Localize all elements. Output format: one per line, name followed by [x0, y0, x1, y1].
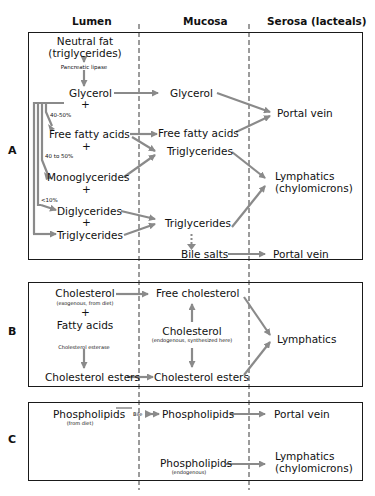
lumen-cholesterol-esters: Cholesterol esters	[45, 371, 140, 383]
mucosa-free-cholesterol: Free cholesterol	[156, 287, 239, 299]
plus-sign: +	[81, 98, 90, 110]
serosa-portal-vein-c: Portal vein	[274, 408, 330, 420]
neutral-fat-sub: (triglycerides)	[48, 47, 122, 59]
serosa-lymphatics-b: Lymphatics	[277, 333, 336, 345]
pct-lt-10-label: <10%	[41, 197, 58, 203]
pct-40-50-label: 40-50%	[50, 112, 71, 118]
plus-sign: +	[81, 306, 90, 318]
serosa-portal-vein-2: Portal vein	[273, 248, 329, 260]
mucosa-triglycerides: Triglycerides	[167, 145, 233, 157]
lumen-phospholipids: Phospholipids	[53, 408, 125, 420]
mucosa-cholesterol-sub: (endogenous, synthesized here)	[148, 337, 236, 343]
mucosa-cholesterol-esters: Cholesterol esters	[154, 371, 249, 383]
mucosa-triglycerides-2: Triglycerides	[165, 217, 231, 229]
serosa-lymphatics-c-sub: (chylomicrons)	[275, 462, 353, 474]
lumen-triglycerides: Triglycerides	[57, 229, 123, 241]
serosa-lymphatics-c: Lymphatics	[275, 450, 334, 462]
mucosa-free-fatty-acids: Free fatty acids	[158, 127, 239, 139]
bile-label: Bile	[133, 411, 142, 417]
serosa-portal-vein: Portal vein	[277, 107, 333, 119]
pancreatic-lipase-label: Pancreatic lipase	[54, 64, 114, 70]
serosa-lymphatics-sub: (chylomicrons)	[275, 182, 353, 194]
plus-sign: +	[82, 216, 91, 228]
serosa-lymphatics: Lymphatics	[275, 170, 334, 182]
mucosa-bile-salts: Bile salts	[181, 248, 228, 260]
neutral-fat-label: Neutral fat	[54, 35, 116, 47]
mucosa-phospholipids-endogenous: Phospholipids	[160, 457, 232, 469]
lumen-free-fatty-acids: Free fatty acids	[49, 128, 130, 140]
lumen-monoglycerides: Monoglycerides	[47, 171, 129, 183]
plus-sign: +	[82, 140, 91, 152]
plus-sign: +	[82, 183, 91, 195]
mucosa-phospholipids-sub: (endogenous)	[164, 469, 214, 475]
pct-40-to-50-label: 40 to 50%	[45, 153, 73, 159]
mucosa-cholesterol: Cholesterol	[160, 325, 224, 337]
mucosa-glycerol: Glycerol	[170, 87, 213, 99]
lumen-glycerol: Glycerol	[69, 87, 112, 99]
lumen-phospholipids-sub: (from diet)	[60, 420, 100, 426]
mucosa-phospholipids: Phospholipids	[162, 408, 234, 420]
lumen-fatty-acids: Fatty acids	[54, 319, 116, 331]
cholesterol-esterase-label: Cholesterol esterase	[44, 344, 124, 350]
lumen-cholesterol: Cholesterol	[54, 287, 116, 299]
